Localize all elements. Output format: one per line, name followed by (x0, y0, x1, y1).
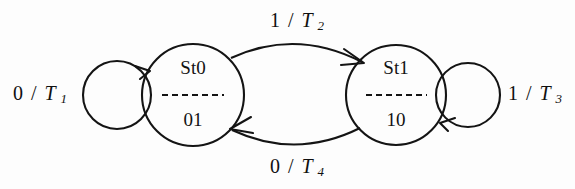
st0-name: St0 (180, 57, 205, 78)
t4-subscript: 4 (318, 164, 325, 179)
state-node-st0[interactable]: St0 01 (142, 44, 244, 146)
edge-label-t4: 0 / T 4 (270, 155, 325, 179)
edge-label-t3: 1 / T 3 (508, 82, 563, 106)
t3-action: T (539, 82, 552, 104)
state-node-st1[interactable]: St1 10 (346, 45, 446, 145)
state-diagram-canvas: St0 01 St1 10 0 / T 1 1 / T 2 (0, 0, 575, 189)
fsm-diagram: St0 01 St1 10 0 / T 1 1 / T 2 (0, 0, 575, 189)
svg-text:0 / T: 0 / T 4 (270, 155, 325, 179)
st0-output: 01 (184, 109, 203, 130)
self-loop-left-path (83, 61, 151, 129)
st1-output: 10 (387, 109, 406, 130)
t2-input: 1 (270, 9, 280, 31)
t2-separator: / (288, 9, 294, 31)
t3-input: 1 (508, 82, 518, 104)
transition-self-loop-left (83, 61, 151, 129)
t1-subscript: 1 (61, 91, 68, 106)
t1-action: T (44, 82, 57, 104)
transition-bottom-arc (230, 117, 360, 145)
svg-text:1 / T: 1 / T 2 (270, 9, 325, 33)
svg-text:1 / T: 1 / T 3 (508, 82, 563, 106)
st1-name: St1 (383, 57, 408, 78)
top-arc-path (231, 44, 362, 62)
t1-input: 0 (13, 82, 23, 104)
self-loop-right-arrowhead (440, 118, 455, 131)
edge-label-t2: 1 / T 2 (270, 9, 325, 33)
t2-subscript: 2 (318, 18, 325, 33)
edge-label-t1: 0 / T 1 (13, 82, 67, 106)
t4-separator: / (288, 155, 294, 177)
t1-separator: / (31, 82, 37, 104)
t4-action: T (301, 155, 314, 177)
t4-input: 0 (270, 155, 280, 177)
t3-separator: / (526, 82, 532, 104)
t2-action: T (301, 9, 314, 31)
transition-top-arc (231, 44, 364, 65)
svg-text:0 / T: 0 / T 1 (13, 82, 67, 106)
t3-subscript: 3 (555, 91, 563, 106)
bottom-arc-path (232, 128, 360, 145)
